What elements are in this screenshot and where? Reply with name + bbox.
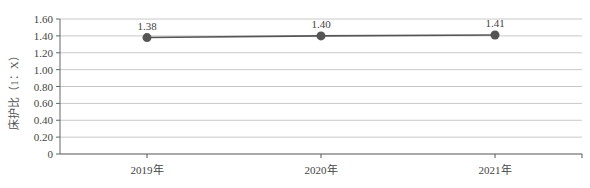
y-tick-label: 0.20 bbox=[34, 131, 54, 143]
data-label: 1.38 bbox=[137, 20, 157, 32]
y-tick-label: 0 bbox=[48, 148, 54, 160]
line-chart: 00.200.400.600.801.001.201.401.60 2019年2… bbox=[0, 0, 590, 188]
y-tick-label: 1.60 bbox=[34, 13, 54, 25]
data-series: 1.381.401.41 bbox=[137, 17, 504, 42]
data-label: 1.40 bbox=[311, 18, 331, 30]
y-tick-label: 0.40 bbox=[34, 114, 54, 126]
y-axis: 00.200.400.600.801.001.201.401.60 bbox=[34, 13, 60, 160]
y-tick-label: 1.00 bbox=[34, 64, 54, 76]
data-point-marker bbox=[143, 33, 152, 42]
y-tick-label: 1.40 bbox=[34, 30, 54, 42]
x-axis: 2019年2020年2021年 bbox=[60, 154, 582, 176]
y-tick-label: 0.60 bbox=[34, 97, 54, 109]
y-tick-label: 1.20 bbox=[34, 47, 54, 59]
y-tick-label: 0.80 bbox=[34, 81, 54, 93]
x-tick-label: 2019年 bbox=[131, 163, 164, 176]
data-point-marker bbox=[317, 31, 326, 40]
data-label: 1.41 bbox=[485, 17, 504, 29]
data-point-marker bbox=[491, 31, 500, 40]
x-tick-label: 2020年 bbox=[305, 163, 338, 176]
x-tick-label: 2021年 bbox=[479, 163, 512, 176]
